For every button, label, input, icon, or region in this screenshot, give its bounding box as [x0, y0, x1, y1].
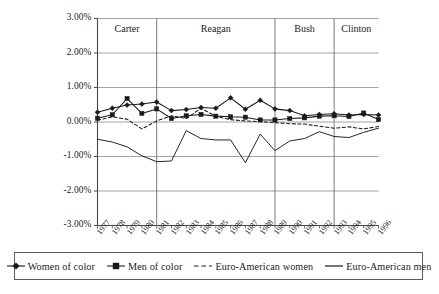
data-point-marker	[155, 107, 159, 111]
legend-item[interactable]: Men of color	[106, 260, 182, 272]
data-point-marker	[243, 115, 247, 119]
era-label-reagan: Reagan	[176, 23, 256, 34]
legend-item-label: Women of color	[28, 261, 95, 272]
data-point-marker	[347, 114, 351, 118]
y-axis-tick-label: -2.00%	[38, 185, 92, 195]
data-point-marker	[139, 102, 144, 107]
data-point-marker	[125, 96, 129, 100]
data-point-marker	[154, 99, 159, 104]
series-euro-american-men	[98, 128, 379, 163]
data-point-marker	[272, 106, 277, 111]
legend-item[interactable]: Euro-American men	[324, 260, 431, 272]
y-axis-tick-label: 2.00%	[38, 47, 92, 57]
data-point-marker	[273, 118, 277, 122]
series-group	[95, 95, 381, 162]
legend-item-label: Euro-American women	[215, 261, 313, 272]
legend-diamond-icon	[6, 260, 26, 272]
chart-legend: Women of colorMen of colorEuro-American …	[14, 252, 423, 280]
data-point-marker	[169, 108, 174, 113]
data-point-marker	[184, 107, 189, 112]
data-point-marker	[140, 111, 144, 115]
data-point-marker	[376, 113, 381, 118]
data-point-marker	[95, 110, 100, 115]
data-point-marker	[362, 111, 366, 115]
era-label-carter: Carter	[87, 23, 167, 34]
data-point-marker	[376, 117, 380, 121]
data-point-marker	[287, 108, 292, 113]
legend-item[interactable]: Women of color	[6, 260, 95, 272]
legend-item-label: Men of color	[128, 261, 182, 272]
legend-items: Women of colorMen of colorEuro-American …	[6, 260, 432, 272]
data-point-marker	[110, 106, 115, 111]
data-point-marker	[229, 115, 233, 119]
data-point-marker	[199, 112, 203, 116]
data-point-marker	[288, 116, 292, 120]
legend-item-label: Euro-American men	[346, 261, 431, 272]
data-point-marker	[125, 103, 130, 108]
chart-page: 3.00%2.00%1.00%0.00%-1.00%-2.00%-3.00% 1…	[0, 0, 439, 294]
y-axis-tick-label: 1.00%	[38, 81, 92, 91]
legend-solid-line-icon	[324, 260, 344, 272]
series-men-of-color	[95, 96, 380, 122]
chart-plot-region: 3.00%2.00%1.00%0.00%-1.00%-2.00%-3.00% 1…	[0, 0, 439, 245]
data-point-marker	[258, 98, 263, 103]
legend-square-icon	[106, 260, 126, 272]
y-axis-tick-label: -3.00%	[38, 219, 92, 229]
data-point-marker	[110, 113, 114, 117]
y-axis-tick-label: 0.00%	[38, 116, 92, 126]
legend-item[interactable]: Euro-American women	[193, 260, 313, 272]
y-axis-tick-label: -1.00%	[38, 150, 92, 160]
gridlines-group	[98, 19, 379, 226]
data-point-marker	[332, 114, 336, 118]
data-point-marker	[317, 114, 321, 118]
series-women-of-color	[95, 95, 381, 118]
y-axis-tick-label: 3.00%	[38, 12, 92, 22]
series-line	[98, 128, 379, 163]
data-point-marker	[302, 116, 306, 120]
data-point-marker	[169, 116, 173, 120]
axis-group	[94, 19, 379, 229]
legend-dashed-line-icon	[193, 260, 213, 272]
era-label-clinton: Clinton	[316, 23, 396, 34]
